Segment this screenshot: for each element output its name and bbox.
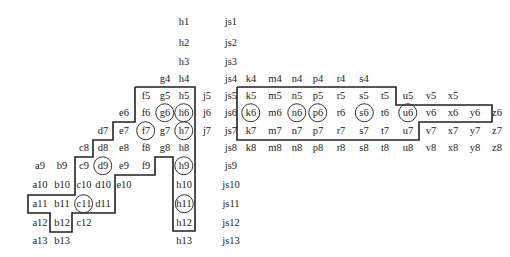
circled-cell-label: h9	[179, 161, 190, 172]
cell-label: m7	[268, 126, 281, 137]
cell-label: m5	[268, 91, 281, 102]
cell-label: js4	[225, 74, 237, 85]
cell-label: r5	[337, 91, 346, 102]
cell-label: y6	[470, 108, 481, 119]
cell-label: x8	[448, 143, 459, 154]
cell-label: p5	[313, 91, 324, 102]
cell-label: r7	[337, 126, 346, 137]
cell-label: js8	[225, 143, 237, 154]
cell-label: n7	[292, 126, 303, 137]
cell-label: p8	[313, 143, 324, 154]
circled-cell-label: h7	[179, 126, 190, 137]
circled-cell-label: f7	[142, 126, 151, 137]
cell-label: h4	[179, 74, 190, 85]
cell-label: g8	[160, 143, 171, 154]
circled-cell-label: u6	[403, 108, 414, 119]
cell-label: z6	[492, 108, 502, 119]
cell-label: k4	[246, 74, 257, 85]
cell-label: v6	[426, 108, 437, 119]
cell-label: u8	[403, 143, 414, 154]
cell-label: c8	[79, 143, 89, 154]
circled-cell-label: d9	[98, 161, 109, 172]
cell-label: d11	[95, 199, 110, 210]
cell-label: r4	[337, 74, 346, 85]
cell-label: e8	[119, 143, 129, 154]
cell-label: u7	[403, 126, 414, 137]
cell-label: a10	[32, 180, 47, 191]
cell-label: r6	[337, 108, 346, 119]
cell-label: c12	[76, 218, 91, 229]
cell-label: b9	[57, 161, 68, 172]
cell-label: h1	[179, 17, 190, 28]
cell-label: n8	[292, 143, 303, 154]
cell-label: c9	[79, 161, 89, 172]
cell-label: js5	[225, 91, 237, 102]
cell-label: m6	[268, 108, 281, 119]
cell-label: x5	[448, 91, 459, 102]
cell-label: f6	[142, 108, 151, 119]
cell-label: js11	[222, 199, 239, 210]
cell-label: s8	[359, 143, 368, 154]
cell-label: b12	[54, 218, 70, 229]
cell-label: y7	[470, 126, 481, 137]
cell-label: j6	[203, 108, 211, 119]
cell-label: x7	[448, 126, 459, 137]
cell-label: h13	[176, 236, 192, 247]
cell-label: k5	[246, 91, 257, 102]
cell-label: g4	[160, 74, 171, 85]
cell-label: t5	[381, 91, 389, 102]
cell-label: j5	[203, 91, 211, 102]
cell-label: g7	[160, 126, 171, 137]
cell-label: f5	[142, 91, 151, 102]
cell-label: m8	[268, 143, 281, 154]
cell-label: js6	[225, 108, 237, 119]
circled-cell-label: c11	[77, 199, 92, 210]
cell-label: a11	[33, 199, 48, 210]
circled-cell-label: g6	[160, 108, 171, 119]
cell-label: a9	[35, 161, 45, 172]
cell-label: k7	[246, 126, 257, 137]
cell-label: js9	[225, 161, 237, 172]
cell-label: f9	[142, 161, 151, 172]
cell-label: e9	[119, 161, 129, 172]
cell-label: h3	[179, 57, 190, 68]
cell-label: h12	[176, 218, 192, 229]
cell-label: js12	[222, 218, 240, 229]
cell-label: t7	[381, 126, 389, 137]
cell-label: r8	[337, 143, 346, 154]
cell-label: x6	[448, 108, 459, 119]
cell-label: d8	[98, 143, 109, 154]
cell-label: e10	[116, 180, 131, 191]
cell-label: e6	[119, 108, 129, 119]
cell-label: t6	[381, 108, 389, 119]
cell-label: js10	[222, 180, 240, 191]
cell-label: js13	[222, 236, 240, 247]
cell-label: d7	[98, 126, 109, 137]
cell-label: m4	[268, 74, 281, 85]
cell-label: n4	[292, 74, 303, 85]
cell-label: s5	[359, 91, 368, 102]
circled-cell-label: s6	[359, 108, 368, 119]
circled-cell-label: h11	[176, 199, 191, 210]
cell-label: h2	[179, 38, 190, 49]
cell-label: j7	[203, 126, 211, 137]
cell-label: s7	[359, 126, 368, 137]
cell-label: u5	[403, 91, 414, 102]
cell-label: v8	[426, 143, 437, 154]
circled-cell-label: p6	[313, 108, 324, 119]
cell-label: p4	[313, 74, 324, 85]
cell-label: g5	[160, 91, 171, 102]
cell-label: js7	[225, 126, 237, 137]
cell-label: t8	[381, 143, 389, 154]
cell-label: a13	[32, 236, 47, 247]
cell-label: b11	[54, 199, 69, 210]
cell-label: n5	[292, 91, 303, 102]
cell-label: js1	[225, 17, 237, 28]
circled-cell-label: n6	[292, 108, 303, 119]
cell-label: js3	[225, 57, 237, 68]
cell-label: y8	[470, 143, 481, 154]
circled-cell-label: k6	[246, 108, 257, 119]
cell-label: k8	[246, 143, 257, 154]
cell-label: z7	[492, 126, 502, 137]
cell-label: f8	[142, 143, 151, 154]
